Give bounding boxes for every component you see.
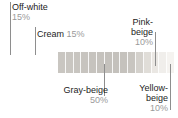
callout-cream: Cream 15% <box>37 27 85 39</box>
strip-segment <box>105 52 113 73</box>
strip-segment <box>81 52 89 73</box>
color-distribution-chart: Off-white 15% Cream 15% Pink- beige 10% … <box>0 0 178 118</box>
callout-gray-beige: Gray-beige 50% <box>48 85 108 105</box>
callout-cream-percent-value: 15% <box>67 29 85 39</box>
callout-off-white: Off-white 15% <box>12 2 48 22</box>
callout-gray-beige-label: Gray-beige <box>48 85 108 95</box>
callout-pink-beige-label: Pink- beige <box>108 17 153 37</box>
leader-line-pink-beige <box>155 32 156 66</box>
callout-off-white-percent: 15% <box>12 12 48 22</box>
callout-off-white-label: Off-white <box>12 2 48 12</box>
callout-yellow-beige-label: Yellow- beige <box>112 83 168 103</box>
strip-segment <box>113 52 121 73</box>
callout-yellow-beige: Yellow- beige 10% <box>112 83 168 113</box>
callout-yellow-beige-percent: 10% <box>112 103 168 113</box>
callout-pink-beige-percent: 10% <box>108 37 153 47</box>
strip-segment <box>58 52 66 73</box>
strip-segment <box>66 52 74 73</box>
callout-pink-beige: Pink- beige 10% <box>108 17 153 47</box>
leader-line-yellow-beige <box>170 64 171 110</box>
callout-gray-beige-percent: 50% <box>48 95 108 105</box>
strip-segment <box>136 52 144 73</box>
strip-segment <box>89 52 97 73</box>
strip-segment <box>120 52 128 73</box>
strip-segment <box>128 52 136 73</box>
leader-line-off-white <box>10 2 11 55</box>
strip-segment <box>159 52 167 73</box>
leader-line-cream <box>35 27 36 55</box>
strip-segment <box>74 52 82 73</box>
strip-segment <box>144 52 152 73</box>
callout-cream-label: Cream <box>37 29 64 39</box>
color-distribution-strip <box>58 52 174 73</box>
